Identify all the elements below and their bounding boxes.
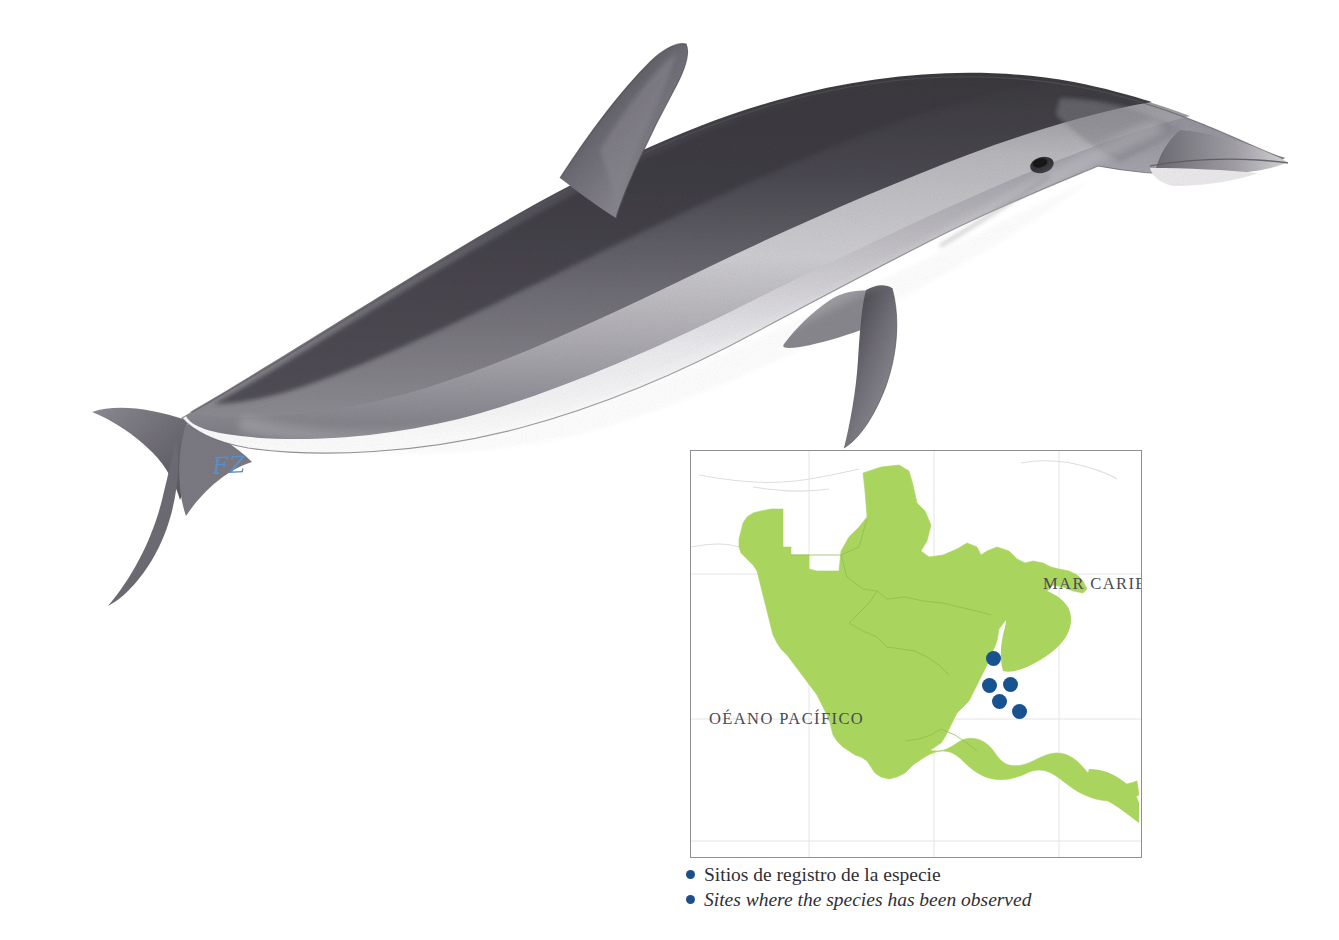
- label-mar-caribe: MAR CARIBE: [1043, 574, 1141, 594]
- legend-bullet-icon: [686, 895, 695, 904]
- map-legend: Sitios de registro de la especie Sites w…: [686, 862, 1146, 913]
- illustration-plate: FZ: [0, 0, 1339, 940]
- land-mass: [739, 465, 1139, 823]
- map-geometry: [691, 451, 1141, 857]
- site-dot: [1012, 704, 1027, 719]
- legend-label-spanish: Sitios de registro de la especie: [704, 862, 941, 887]
- legend-bullet-icon: [686, 870, 695, 879]
- legend-item-es: Sitios de registro de la especie: [686, 862, 1146, 887]
- site-dot: [992, 694, 1007, 709]
- label-oceano-pacifico: OÉANO PACÍFICO: [709, 709, 864, 729]
- legend-label-english: Sites where the species has been observe…: [704, 887, 1031, 912]
- distribution-map: MAR CARIBE OÉANO PACÍFICO: [690, 450, 1142, 858]
- artist-signature: FZ: [211, 451, 246, 479]
- site-dot: [1003, 677, 1018, 692]
- legend-item-en: Sites where the species has been observe…: [686, 887, 1146, 912]
- site-dot: [986, 651, 1001, 666]
- map-canvas: MAR CARIBE OÉANO PACÍFICO: [691, 451, 1141, 857]
- site-dot: [982, 678, 997, 693]
